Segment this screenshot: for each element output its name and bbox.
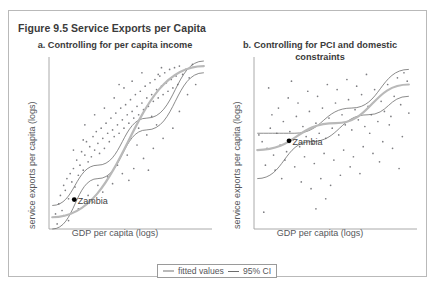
- legend-swatch-ci-icon: [228, 271, 239, 272]
- panel-a-xlabel: GDP per capita (logs): [15, 228, 215, 238]
- legend-label-fitted: fitted values: [178, 266, 224, 276]
- legend-label-ci: 95% CI: [243, 266, 271, 276]
- figure-title: Figure 9.5 Service Exports per Capita: [18, 22, 206, 34]
- chart-legend: fitted values 95% CI: [157, 264, 277, 278]
- zambia-annotation: Zambia: [293, 137, 323, 147]
- panel-b-ylabel: service exports per capita (logs): [232, 101, 242, 229]
- panel-a-ylabel: service exports per capita (logs): [27, 101, 37, 229]
- zambia-annotation: Zambia: [78, 196, 108, 206]
- panel-a: a. Controlling for per capita income Zam…: [15, 39, 215, 267]
- panel-b: b. Controlling for PCI and domestic cons…: [220, 39, 420, 267]
- panel-b-xlabel: GDP per capita (logs): [220, 228, 420, 238]
- legend-swatch-fitted-icon: [163, 270, 174, 272]
- figure-frame: Figure 9.5 Service Exports per Capita a.…: [8, 10, 427, 277]
